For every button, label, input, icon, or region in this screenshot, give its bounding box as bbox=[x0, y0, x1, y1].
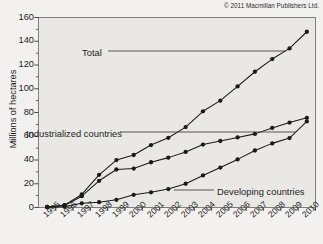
x-tick-label: 2008 bbox=[266, 199, 287, 219]
series-label-industrialized: Industrialized countries bbox=[26, 128, 122, 139]
x-tick-label: 2006 bbox=[231, 199, 252, 219]
x-tick-label: 2010 bbox=[300, 199, 321, 219]
x-tick-label: 2007 bbox=[248, 199, 269, 219]
x-tick-label: 1999 bbox=[110, 199, 131, 219]
x-tick-label: 1996 bbox=[58, 199, 79, 219]
figure-panel: © 2011 Macmillan Publishers Ltd. Million… bbox=[0, 0, 323, 244]
x-tick-label: 1997 bbox=[75, 199, 96, 219]
series-label-developing: Developing countries bbox=[217, 186, 305, 197]
x-tick-label: 2005 bbox=[214, 199, 235, 219]
line-chart: Millions of hectares 0204060801001201401… bbox=[0, 0, 323, 244]
x-tick-label: 2002 bbox=[162, 199, 183, 219]
x-tick-label: 2009 bbox=[283, 199, 304, 219]
series-label-total: Total bbox=[82, 47, 102, 58]
x-axis-tick-labels: 1995199619971998199920002001200220032004… bbox=[0, 0, 323, 244]
x-tick-label: 2004 bbox=[196, 199, 217, 219]
x-tick-label: 1995 bbox=[41, 199, 62, 219]
x-tick-label: 2000 bbox=[127, 199, 148, 219]
x-tick-label: 2001 bbox=[145, 199, 166, 219]
x-tick-label: 1998 bbox=[93, 199, 114, 219]
